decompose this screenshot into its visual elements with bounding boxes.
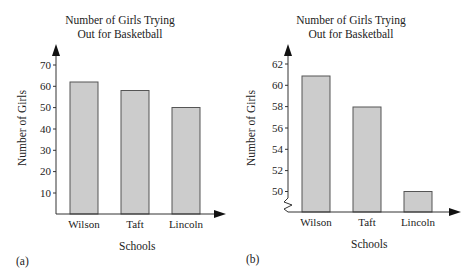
- x-category-label: Lincoln: [393, 216, 443, 228]
- chart-panel-a: Number of Girls Trying Out for Basketbal…: [0, 0, 235, 275]
- bar-taft-b: [353, 107, 381, 212]
- chart-title-a: Number of Girls Trying Out for Basketbal…: [50, 13, 190, 41]
- y-axis-label-a: Number of Girls: [16, 78, 28, 178]
- y-tick-label: 70: [29, 59, 51, 71]
- y-tick-label: 58: [261, 100, 283, 112]
- x-axis-arrow-b: [449, 208, 461, 216]
- chart-a-plot: [0, 0, 235, 275]
- x-category-label: Wilson: [59, 218, 109, 230]
- y-tick-label: 30: [29, 144, 51, 156]
- bar-wilson-b: [302, 76, 330, 212]
- y-tick-label: 62: [261, 58, 283, 70]
- axis-break-icon: [284, 198, 292, 212]
- y-tick-label: 10: [29, 187, 51, 199]
- y-tick-label: 50: [261, 185, 283, 197]
- y-tick-label: 20: [29, 165, 51, 177]
- bar-taft-a: [121, 91, 149, 215]
- chart-b-plot: [235, 0, 471, 275]
- y-tick-label: 56: [261, 122, 283, 134]
- bar-lincoln-a: [172, 108, 200, 215]
- x-category-label: Taft: [342, 216, 392, 228]
- chart-title-b: Number of Girls Trying Out for Basketbal…: [281, 13, 421, 41]
- y-tick-label: 60: [261, 79, 283, 91]
- x-category-label: Wilson: [291, 216, 341, 228]
- x-category-label: Lincoln: [161, 218, 211, 230]
- y-axis-label-b: Number of Girls: [245, 78, 257, 178]
- panel-tag-b: (b): [246, 253, 259, 265]
- chart-panel-b: Number of Girls Trying Out for Basketbal…: [235, 0, 471, 275]
- x-axis-label-a: Schools: [119, 240, 155, 252]
- y-tick-label: 60: [29, 80, 51, 92]
- y-tick-label: 54: [261, 143, 283, 155]
- bar-lincoln-b: [404, 192, 432, 213]
- bar-wilson-a: [70, 82, 98, 214]
- y-axis-arrow-b: [284, 44, 292, 56]
- panel-tag-a: (a): [16, 255, 29, 267]
- y-tick-label: 50: [29, 101, 51, 113]
- y-axis-arrow-a: [52, 44, 60, 56]
- x-category-label: Taft: [110, 218, 160, 230]
- x-axis-label-b: Schools: [351, 238, 387, 250]
- y-tick-label: 52: [261, 164, 283, 176]
- y-tick-label: 40: [29, 123, 51, 135]
- x-axis-arrow-a: [214, 210, 226, 218]
